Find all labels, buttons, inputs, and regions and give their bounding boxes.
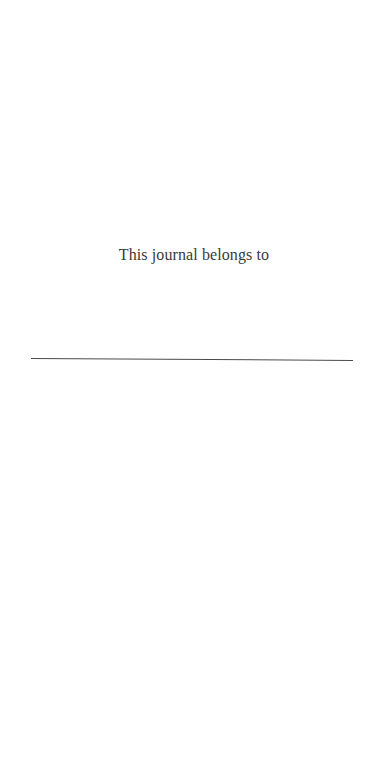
journal-ownership-page: This journal belongs to bbox=[0, 0, 388, 783]
owner-name-line bbox=[31, 358, 353, 361]
owner-label: This journal belongs to bbox=[0, 245, 388, 265]
